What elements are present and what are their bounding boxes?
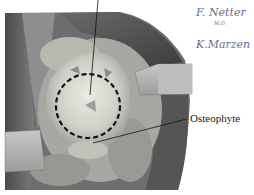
signature-netter-degree: M.D. <box>214 20 226 26</box>
signature-marzen: K.Marzen <box>196 38 250 51</box>
illustration-canvas <box>0 0 254 195</box>
surgical-illustration: Osteophyte F. Netter M.D. K.Marzen <box>0 0 254 195</box>
label-osteophyte: Osteophyte <box>190 112 240 124</box>
retractor-left <box>5 130 45 172</box>
signature-netter: F. Netter <box>196 6 246 19</box>
